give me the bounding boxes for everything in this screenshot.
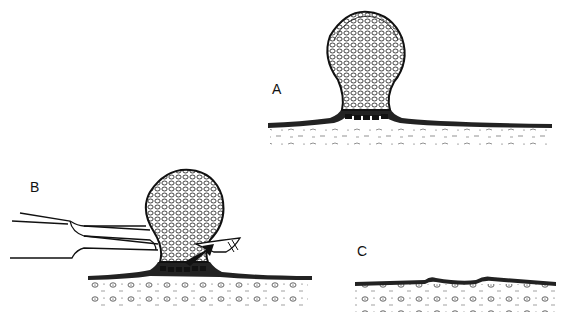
panel-label-b: B — [30, 180, 39, 194]
forceps-instrument — [10, 213, 158, 258]
panel-label-a: A — [272, 82, 281, 96]
panel-label-c: C — [357, 244, 367, 258]
panel-a-illustration — [268, 12, 552, 148]
figure-canvas — [0, 0, 568, 316]
panel-c-illustration — [355, 276, 556, 312]
